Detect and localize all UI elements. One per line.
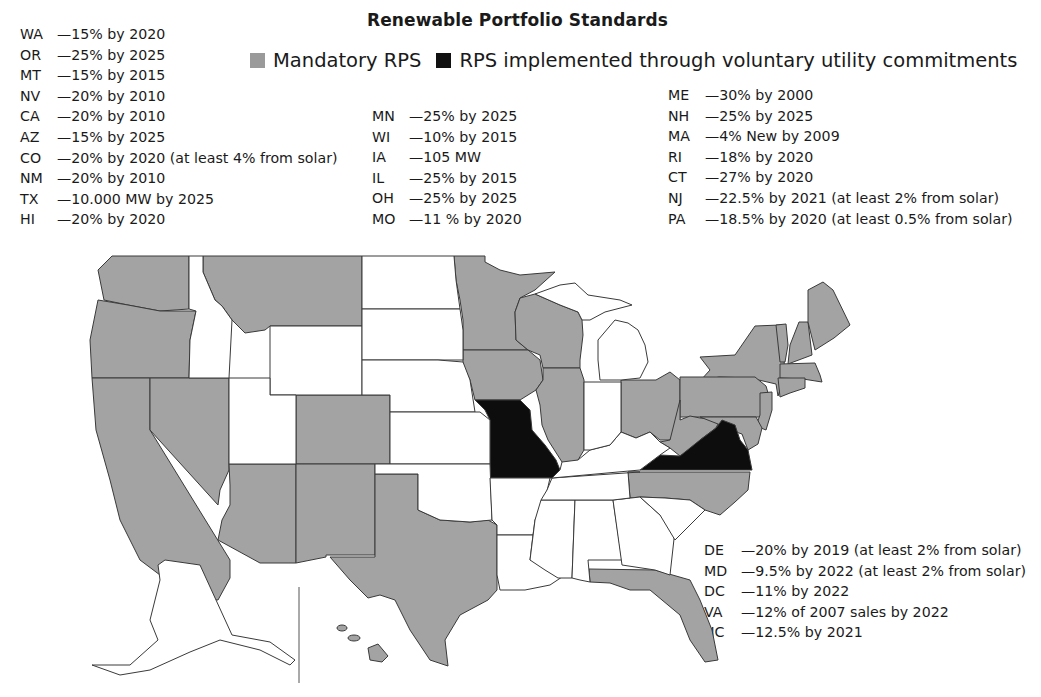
state-mi [598,320,648,380]
state-wy [270,326,362,395]
state-me [808,282,850,350]
state-ct-ri [778,378,805,397]
us-map [0,0,1041,697]
state-ak [92,560,295,675]
state-hi-island [348,635,360,641]
state-fl [589,569,718,662]
state-az [218,464,296,563]
state-ia [463,350,543,400]
state-nm [296,464,375,563]
state-ks [390,412,490,464]
state-or [90,300,196,378]
state-nd [362,256,460,309]
state-pa [680,377,770,417]
state-hi [368,644,388,662]
state-sd [362,309,463,360]
state-co [296,395,390,464]
state-hi-island [337,625,347,631]
state-nh [788,322,812,364]
state-oh [621,372,680,440]
